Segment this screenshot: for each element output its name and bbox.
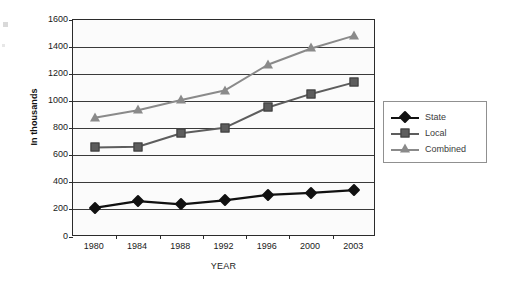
x-tick-label: 1992 xyxy=(201,241,247,251)
scan-artifact xyxy=(2,44,5,47)
data-point-local-1992 xyxy=(220,123,229,132)
legend-item-label: Local xyxy=(425,128,447,138)
legend-item-state[interactable]: State xyxy=(390,109,480,125)
legend-item-local[interactable]: Local xyxy=(390,125,480,141)
legend-marker-square-icon xyxy=(390,126,420,140)
legend-symbol xyxy=(401,129,410,138)
x-tick-label: 1996 xyxy=(244,241,290,251)
scan-artifact xyxy=(3,22,8,27)
y-tick-label: 800 xyxy=(34,123,68,132)
legend-symbol xyxy=(399,111,412,124)
legend-item-label: State xyxy=(425,112,446,122)
data-point-local-1996 xyxy=(263,103,272,112)
legend-symbol xyxy=(400,143,410,152)
y-tick-label: 600 xyxy=(34,150,68,159)
x-tick-label: 1988 xyxy=(157,241,203,251)
legend-item-label: Combined xyxy=(425,144,466,154)
data-point-combined-1980 xyxy=(90,112,100,121)
chart-legend: StateLocalCombined xyxy=(383,101,487,163)
y-tick-label: 1600 xyxy=(34,15,68,24)
data-point-combined-1992 xyxy=(220,85,230,94)
y-axis-tick-labels: 02004006008001000120014001600 xyxy=(30,0,68,283)
x-tick-label: 2000 xyxy=(287,241,333,251)
data-point-local-1984 xyxy=(133,142,142,151)
y-tick-label: 1000 xyxy=(34,96,68,105)
data-point-combined-2000 xyxy=(306,43,316,52)
data-point-combined-1988 xyxy=(176,94,186,103)
x-tick-label: 2003 xyxy=(330,241,376,251)
data-point-combined-2003 xyxy=(349,30,359,39)
data-point-local-2003 xyxy=(350,78,359,87)
y-tick-label: 1400 xyxy=(34,42,68,51)
y-tick-label: 1200 xyxy=(34,69,68,78)
y-tick-label: 400 xyxy=(34,177,68,186)
x-tick-label: 1984 xyxy=(114,241,160,251)
data-point-local-2000 xyxy=(307,89,316,98)
data-series-layer xyxy=(73,20,374,235)
y-tick-label: 200 xyxy=(34,204,68,213)
chart-figure: In thousands 020040060080010001200140016… xyxy=(0,0,505,283)
legend-marker-diamond-icon xyxy=(390,110,420,124)
plot-area xyxy=(72,19,375,236)
data-point-local-1980 xyxy=(90,143,99,152)
legend-item-combined[interactable]: Combined xyxy=(390,141,480,157)
x-axis-title: YEAR xyxy=(72,261,375,271)
x-axis-tick-labels: 1980198419881992199620002003 xyxy=(72,241,375,255)
data-point-combined-1984 xyxy=(133,105,143,114)
data-point-combined-1996 xyxy=(263,59,273,68)
data-point-local-1988 xyxy=(177,129,186,138)
x-tick-label: 1980 xyxy=(71,241,117,251)
y-tick-label: 0 xyxy=(34,232,68,241)
legend-marker-triangle-icon xyxy=(390,142,420,156)
